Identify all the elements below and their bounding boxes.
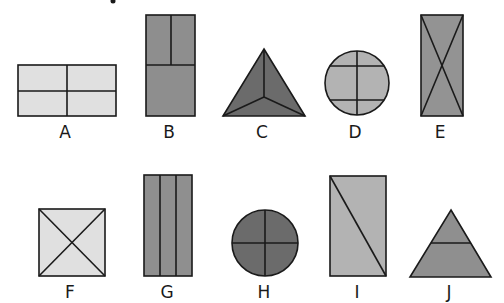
shape-c-label: C: [256, 122, 268, 142]
shape-h-label: H: [258, 282, 271, 302]
shape-j-label: J: [445, 282, 451, 302]
shape-e-label: E: [435, 122, 446, 142]
shape-g: G: [144, 175, 192, 302]
shape-i: I: [330, 176, 386, 302]
shape-a-label: A: [59, 122, 71, 142]
shape-f: F: [39, 209, 105, 302]
ink-dot: [111, 0, 116, 4]
shape-e: E: [421, 15, 463, 142]
shape-j: J: [410, 210, 491, 302]
shape-i-label: I: [354, 282, 359, 302]
shape-d: D: [325, 51, 389, 142]
shape-c: C: [223, 49, 305, 142]
shapes-diagram: A B C D E F G: [0, 0, 504, 303]
shape-h: H: [232, 210, 298, 302]
shape-d-label: D: [348, 122, 361, 142]
shape-f-label: F: [65, 282, 75, 302]
shape-g-label: G: [160, 282, 173, 302]
shape-b-label: B: [163, 122, 175, 142]
shape-b: B: [146, 15, 195, 142]
shape-a: A: [18, 65, 116, 142]
